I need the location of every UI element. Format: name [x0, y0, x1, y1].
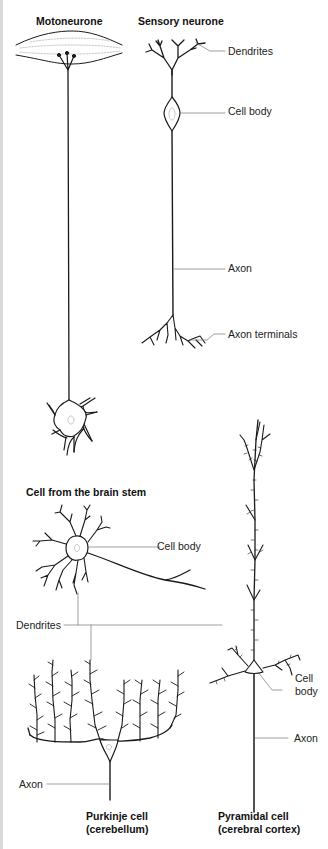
purkinje-title-line1: Purkinje cell [86, 810, 148, 823]
pyramidal-axon-label: Axon [294, 732, 318, 744]
purkinje-cell-drawing [28, 660, 184, 800]
neuron-diagram [0, 0, 328, 849]
purkinje-cell-title: Purkinje cell (cerebellum) [86, 810, 148, 836]
shared-dendrites-leader [64, 593, 222, 660]
sensory-axon-label: Axon [228, 262, 252, 274]
shared-dendrites-label: Dendrites [16, 619, 61, 631]
purkinje-axon-label: Axon [19, 778, 43, 790]
motoneurone-title: Motoneurone [36, 15, 103, 27]
sensory-cell-body-label: Cell body [228, 105, 272, 117]
purkinje-title-line2: (cerebellum) [86, 823, 148, 836]
brain-stem-cell-title: Cell from the brain stem [26, 486, 146, 498]
sensory-dendrites-label: Dendrites [228, 45, 273, 57]
sensory-neurone-title: Sensory neurone [138, 15, 224, 27]
pyramidal-title-line1: Pyramidal cell [218, 810, 300, 823]
brain-stem-cell-body-label: Cell body [157, 540, 201, 552]
sensory-axon-terminals-label: Axon terminals [228, 328, 297, 340]
sensory-neurone-drawing [142, 39, 225, 348]
pyramidal-cell-title: Pyramidal cell (cerebral cortex) [218, 810, 300, 836]
pyramidal-cell-drawing [210, 420, 300, 812]
pyramidal-cell-body-label: Cell body [295, 672, 318, 698]
pyramidal-cell-body-line2: body [295, 685, 318, 698]
motoneurone-drawing [16, 31, 122, 455]
pyramidal-cell-body-line1: Cell [295, 672, 318, 685]
pyramidal-title-line2: (cerebral cortex) [218, 823, 300, 836]
